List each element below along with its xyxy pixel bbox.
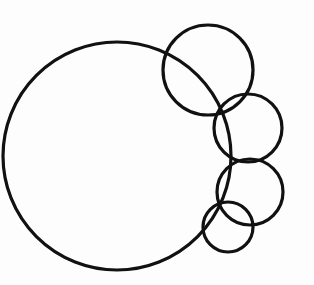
figure-background bbox=[0, 0, 314, 285]
circles-diagram bbox=[0, 0, 314, 285]
figure-container bbox=[0, 0, 314, 285]
